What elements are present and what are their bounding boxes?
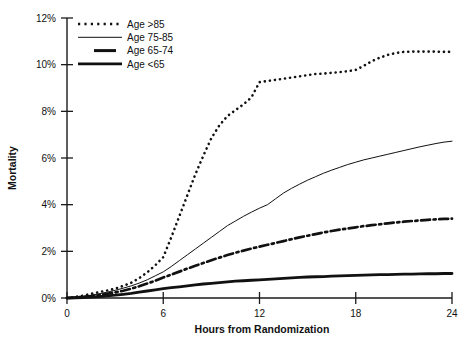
series-line-age-85: [67, 52, 452, 298]
mortality-chart-figure: 0%2%4%6%8%10%12% 06121824 Mortality Hour…: [0, 0, 463, 348]
data-series-group: [67, 52, 452, 298]
x-tick-label: 0: [64, 308, 70, 319]
chart-canvas: 0%2%4%6%8%10%12% 06121824 Mortality Hour…: [0, 0, 463, 348]
series-line-age-65-74: [67, 219, 452, 298]
y-tick-label: 4%: [42, 199, 57, 210]
legend-label: Age 75-85: [127, 32, 174, 43]
y-tick-label: 12%: [36, 13, 56, 24]
axis-group: [67, 18, 452, 298]
y-tick-label: 0%: [42, 293, 57, 304]
legend-label: Age <65: [127, 59, 165, 70]
y-axis-title: Mortality: [6, 146, 18, 190]
y-tick-label: 6%: [42, 153, 57, 164]
legend-label: Age >85: [127, 19, 165, 30]
x-tick-label: 6: [160, 308, 166, 319]
x-axis-title: Hours from Randomization: [195, 323, 330, 335]
y-tick-label: 8%: [42, 106, 57, 117]
legend-label: Age 65-74: [127, 45, 174, 56]
x-tick-label: 24: [446, 308, 458, 319]
x-axis-ticks: 06121824: [64, 292, 458, 319]
x-tick-label: 12: [254, 308, 266, 319]
y-tick-label: 2%: [42, 246, 57, 257]
y-tick-label: 10%: [36, 59, 56, 70]
chart-legend: Age >85Age 75-85Age 65-74Age <65: [78, 19, 174, 70]
x-tick-label: 18: [350, 308, 362, 319]
